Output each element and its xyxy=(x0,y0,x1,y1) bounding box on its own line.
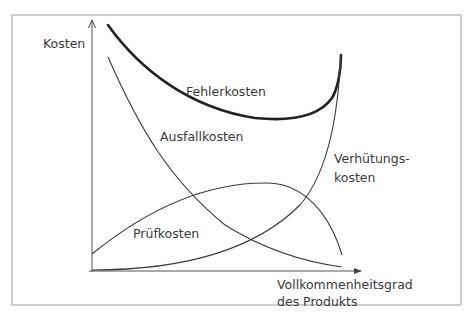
y-axis-label: Kosten xyxy=(43,36,85,51)
label-ausfallkosten: Ausfallkosten xyxy=(160,129,243,144)
label-fehlerkosten: Fehlerkosten xyxy=(186,84,266,99)
cost-diagram: Kosten Fehlerkosten Ausfallkosten Prüfko… xyxy=(0,0,471,322)
curve-fehlerkosten xyxy=(108,25,341,119)
label-verhuetungskosten-line2: kosten xyxy=(334,170,375,185)
x-axis-arrow-icon xyxy=(354,268,362,274)
x-axis-label-line2: des Produkts xyxy=(277,294,357,309)
label-pruefkosten: Prüfkosten xyxy=(133,226,199,241)
curve-pruefkosten xyxy=(92,183,342,255)
x-axis-label-line1: Vollkommenheitsgrad xyxy=(277,277,413,292)
label-verhuetungskosten-line1: Verhütungs- xyxy=(334,151,410,166)
